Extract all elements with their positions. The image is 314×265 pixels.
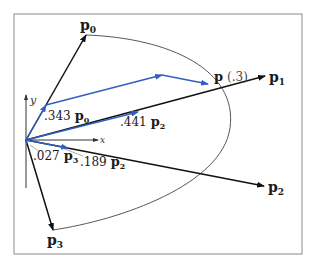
label-weight-343-p0: .343p0 xyxy=(44,108,90,125)
weighted-vector-189-chain xyxy=(162,75,208,84)
label-p2: p2 xyxy=(268,179,284,197)
label-weight-027-p3: .027p3 xyxy=(33,148,79,165)
label-p3: p3 xyxy=(47,232,63,250)
bezier-curve xyxy=(53,35,231,230)
figure-frame xyxy=(14,14,302,254)
label-p0: p0 xyxy=(80,17,96,35)
weighted-vector-441-chain xyxy=(46,75,162,105)
bezier-blend-diagram: y x p0 p1 p2 p3 p(.3) .343p0 .441p2 .027… xyxy=(0,0,314,265)
x-axis-label: x xyxy=(100,135,105,145)
y-axis-label: y xyxy=(29,94,37,107)
label-p1: p1 xyxy=(269,69,285,87)
label-weight-441-p2: .441p2 xyxy=(120,114,165,131)
weighted-vector-027-p3 xyxy=(26,140,27,144)
label-curve-point: p(.3) xyxy=(214,69,248,84)
label-weight-189-p2: .189p2 xyxy=(80,154,125,171)
